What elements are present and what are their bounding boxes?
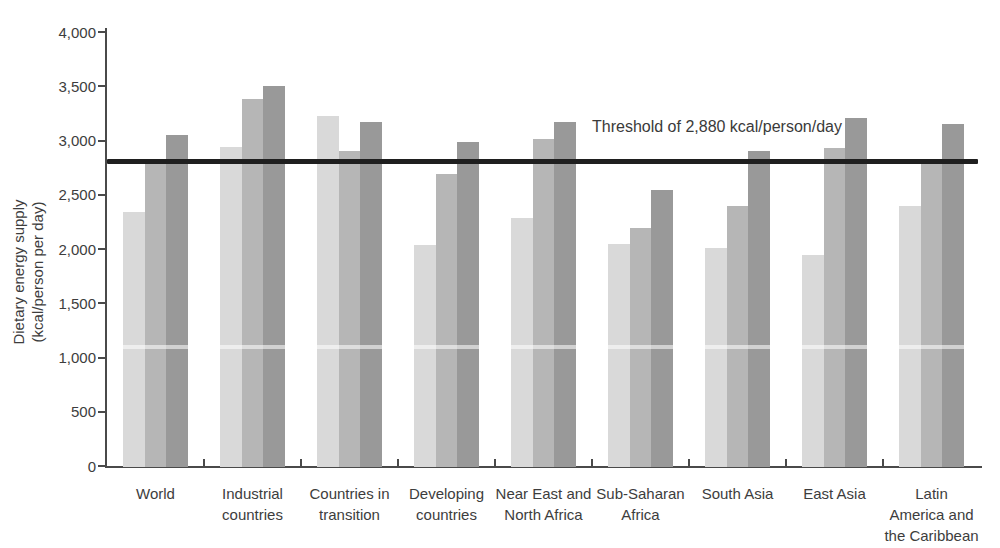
bar-series-2-medium-gray [533, 139, 555, 467]
x-axis-category-label: Industrial countries [198, 483, 308, 525]
bar-series-2-medium-gray [727, 206, 749, 467]
y-axis-tick [98, 85, 105, 87]
x-axis-tick [882, 459, 884, 468]
y-axis-tick-label: 3,500 [26, 79, 96, 94]
bar-series-3-dark-gray [554, 122, 576, 467]
y-axis-tick-label: 1,500 [26, 296, 96, 311]
bar-series-1-light-gray [511, 218, 533, 467]
y-axis-tick-label: 0 [26, 459, 96, 474]
bar-series-1-light-gray [220, 147, 242, 467]
x-axis-tick [785, 459, 787, 468]
bar-series-2-medium-gray [436, 174, 458, 467]
y-axis-tick-label: 500 [26, 404, 96, 419]
x-axis-tick [688, 459, 690, 468]
x-axis-category-label: World [101, 483, 211, 504]
bar-series-1-light-gray [123, 212, 145, 467]
bar-series-1-light-gray [414, 245, 436, 467]
x-axis-category-label: South Asia [683, 483, 793, 504]
y-axis-tick [98, 194, 105, 196]
x-axis-category-label: Developing countries [392, 483, 502, 525]
dietary-energy-supply-bar-chart: Dietary energy supply (kcal/person per d… [0, 0, 1000, 548]
bar-series-1-light-gray [899, 206, 921, 467]
x-axis-category-label: Countries in transition [295, 483, 405, 525]
threshold-line [107, 159, 978, 164]
bar-series-3-dark-gray [651, 190, 673, 467]
y-axis-tick [98, 140, 105, 142]
y-axis-tick-label: 3,000 [26, 133, 96, 148]
y-axis-tick [98, 248, 105, 250]
bar-series-3-dark-gray [263, 86, 285, 467]
threshold-annotation: Threshold of 2,880 kcal/person/day [592, 117, 842, 137]
y-axis-line [105, 28, 107, 468]
bar-series-2-medium-gray [145, 162, 167, 467]
bar-series-3-dark-gray [166, 135, 188, 467]
x-axis-tick [494, 459, 496, 468]
bar-series-3-dark-gray [942, 124, 964, 467]
x-axis-tick [203, 459, 205, 468]
y-axis-tick-label: 2,500 [26, 187, 96, 202]
bar-series-2-medium-gray [921, 160, 943, 467]
y-axis-tick [98, 31, 105, 33]
bar-series-1-light-gray [608, 244, 630, 467]
y-axis-tick [98, 357, 105, 359]
x-axis-category-label: Latin America and the Caribbean [877, 483, 987, 546]
y-axis-title: Dietary energy supply (kcal/person per d… [9, 132, 47, 412]
bar-series-2-medium-gray [824, 148, 846, 467]
bar-series-1-light-gray [705, 248, 727, 467]
y-axis-tick [98, 465, 105, 467]
x-axis-tick [397, 459, 399, 468]
bar-series-1-light-gray [317, 116, 339, 467]
x-axis-category-label: Near East and North Africa [489, 483, 599, 525]
y-axis-tick [98, 411, 105, 413]
x-axis-tick [300, 459, 302, 468]
y-axis-tick-label: 2,000 [26, 242, 96, 257]
bar-series-3-dark-gray [845, 118, 867, 467]
scan-artifact-line [107, 345, 980, 349]
y-axis-title-line1: Dietary energy supply [9, 132, 28, 412]
x-axis-tick [591, 459, 593, 468]
y-axis-title-line2: (kcal/person per day) [28, 132, 47, 412]
bar-series-1-light-gray [802, 255, 824, 467]
y-axis-tick-label: 1,000 [26, 350, 96, 365]
bar-series-3-dark-gray [360, 122, 382, 467]
y-axis-tick-label: 4,000 [26, 25, 96, 40]
x-axis-category-label: East Asia [780, 483, 890, 504]
bar-series-3-dark-gray [748, 151, 770, 467]
y-axis-tick [98, 302, 105, 304]
bar-series-2-medium-gray [339, 151, 361, 467]
bar-series-2-medium-gray [242, 99, 264, 467]
x-axis-category-label: Sub-Saharan Africa [586, 483, 696, 525]
bar-series-3-dark-gray [457, 142, 479, 467]
